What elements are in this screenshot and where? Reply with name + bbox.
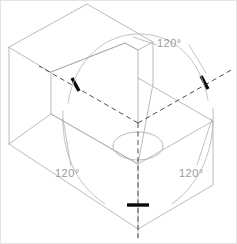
axis-tick-marks bbox=[72, 76, 208, 205]
angle-arc-left bbox=[63, 111, 105, 204]
leader-line-top bbox=[133, 37, 157, 45]
isometric-block-drawing bbox=[1, 1, 237, 244]
isometric-axis-lines bbox=[39, 66, 233, 238]
lower-block-top-face bbox=[51, 78, 213, 164]
angle-label-left: 120° bbox=[55, 167, 80, 179]
upper-block-front-slope-face bbox=[51, 43, 138, 72]
lower-block-left-face-top bbox=[9, 114, 51, 144]
leader-line-left bbox=[63, 119, 71, 166]
angle-label-top: 120° bbox=[157, 37, 182, 49]
left-receding-axis bbox=[39, 66, 138, 123]
lower-block-left-face-bottom bbox=[9, 144, 138, 229]
upper-block-top-face bbox=[9, 4, 153, 72]
drawing-canvas: 120° 120° 120° bbox=[0, 0, 237, 244]
left-axis-tick-icon bbox=[72, 78, 79, 91]
angle-arc-right bbox=[172, 108, 213, 204]
right-receding-axis bbox=[138, 69, 233, 123]
solid-body-edges bbox=[9, 4, 213, 238]
angle-label-right: 120° bbox=[179, 167, 204, 179]
angle-leader-lines bbox=[63, 37, 212, 166]
